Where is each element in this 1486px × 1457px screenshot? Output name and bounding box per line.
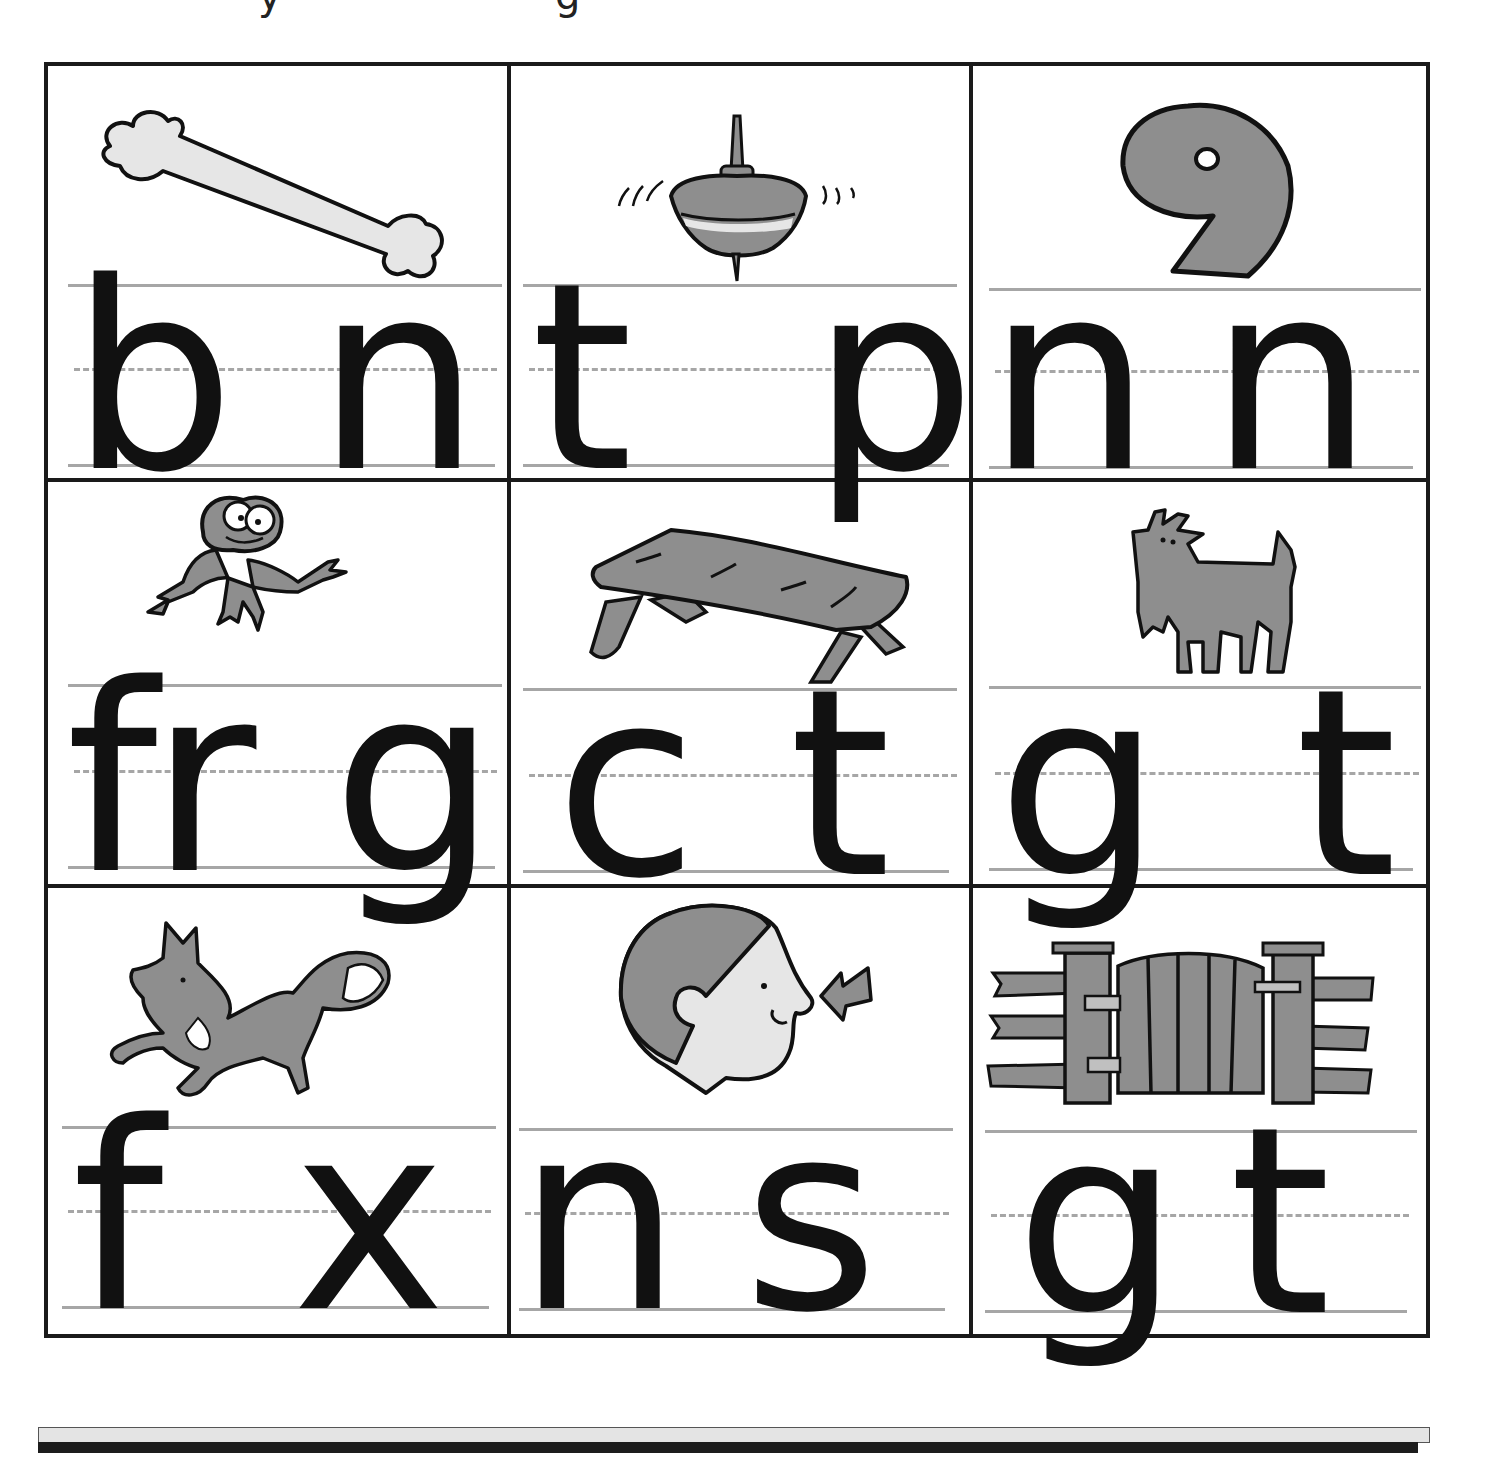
- letter-choice[interactable]: f: [72, 1088, 164, 1348]
- letter-choice[interactable]: n: [987, 248, 1152, 508]
- bottom-border-shadow: [38, 1442, 1418, 1453]
- cell-gate: g t: [973, 888, 1429, 1334]
- letter-choice[interactable]: n: [517, 1088, 682, 1348]
- letter-choice[interactable]: fr: [66, 650, 248, 910]
- letter-choice[interactable]: g: [997, 654, 1162, 914]
- cutoff-heading-glyph: g: [555, 0, 580, 18]
- cell-frog: fr g: [48, 482, 507, 884]
- cutoff-heading-glyph: y: [258, 0, 282, 18]
- cell-table: c t: [511, 482, 969, 884]
- cell-top: t p: [511, 66, 969, 478]
- letter-choice[interactable]: t: [789, 654, 891, 914]
- letter-choice[interactable]: s: [743, 1088, 878, 1348]
- letter-choice[interactable]: b: [70, 248, 235, 508]
- letter-choice[interactable]: n: [316, 248, 481, 508]
- letter-choice[interactable]: t: [1229, 1092, 1331, 1352]
- cell-nose: n s: [511, 888, 969, 1334]
- cell-nine: n n: [973, 66, 1429, 478]
- letter-choice[interactable]: t: [1295, 654, 1397, 914]
- letter-choice[interactable]: g: [332, 650, 497, 910]
- bottom-border-bar: [38, 1427, 1430, 1443]
- letter-choice[interactable]: g: [1015, 1092, 1180, 1352]
- letter-choice[interactable]: c: [555, 654, 698, 914]
- cell-bone: b n: [48, 66, 507, 478]
- letter-choice[interactable]: x: [292, 1088, 446, 1348]
- cell-goat: g t: [973, 482, 1429, 884]
- letter-choice[interactable]: n: [1209, 248, 1374, 508]
- letter-choice[interactable]: t: [531, 248, 633, 508]
- letter-choice[interactable]: p: [811, 248, 976, 508]
- cell-fox: f x: [48, 888, 507, 1334]
